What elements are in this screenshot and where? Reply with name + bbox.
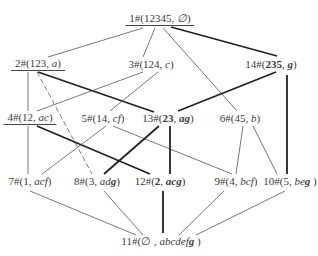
edge-n4-n12: [37, 126, 150, 174]
lattice-node-7: 7#(1, acf): [9, 175, 52, 187]
paren-close: ): [121, 112, 125, 124]
node-extent: 235: [266, 58, 283, 70]
lattice-node-5: 5#(14, cf): [82, 112, 125, 124]
paren-close: ): [190, 112, 194, 124]
node-intent: cf: [113, 112, 121, 124]
node-extent: ∅: [141, 235, 151, 247]
edge-n7-n11: [30, 191, 136, 235]
node-intent-bold: acg: [166, 175, 182, 187]
paren-close: ): [254, 175, 258, 187]
edge-n1-n14: [171, 27, 277, 56]
edge-n5-n7: [42, 126, 106, 174]
node-id: 6#: [220, 112, 231, 124]
node-extent: 12345: [144, 12, 172, 24]
node-id: 7#: [9, 175, 20, 187]
node-id: 14#: [245, 58, 262, 70]
lattice-edges: [0, 0, 318, 256]
edge-n1-n6: [163, 28, 237, 111]
node-id: 13#: [142, 112, 159, 124]
paren-close: ): [116, 175, 120, 187]
paren-close: ): [182, 175, 186, 187]
lattice-node-13: 13#(23, ag): [142, 112, 193, 124]
paren-close: ): [49, 111, 53, 123]
node-extent: 23: [163, 112, 174, 124]
node-id: 4#: [7, 111, 18, 123]
lattice-node-11: 11#(∅ , abcdefg ): [121, 235, 200, 247]
node-intent: ad: [100, 175, 111, 187]
node-intent: abcdef: [159, 235, 188, 247]
node-id: 5#: [82, 112, 93, 124]
node-extent: 12: [22, 111, 33, 123]
lattice-node-6: 6#(45, b): [220, 112, 260, 124]
node-intent-bold: ag: [179, 112, 190, 124]
paren-close: ): [48, 175, 52, 187]
lattice-node-1: 1#(12345, ∅): [125, 12, 194, 26]
node-intent: be: [294, 175, 304, 187]
node-intent: ac: [39, 111, 49, 123]
node-extent: 123: [30, 57, 47, 69]
edge-n10-n11: [196, 191, 285, 235]
node-id: 3#: [128, 58, 139, 70]
node-id: 1#: [129, 12, 140, 24]
lattice-node-2: 2#(123, a): [11, 57, 65, 71]
node-extent: 14: [96, 112, 107, 124]
paren-close: ): [170, 58, 174, 70]
node-extent: 124: [143, 58, 160, 70]
lattice-node-8: 8#(3, adg): [74, 175, 120, 187]
node-id: 9#: [215, 175, 226, 187]
lattice-node-4: 4#(12, ac): [3, 111, 56, 125]
node-id: 12#: [135, 175, 152, 187]
node-id: 8#: [74, 175, 85, 187]
node-intent: acf: [34, 175, 47, 187]
edge-n6-n9: [236, 126, 243, 174]
edge-n14-n13: [178, 72, 276, 111]
paren-close: ): [194, 235, 200, 247]
lattice-node-14: 14#(235, g): [245, 58, 296, 70]
node-id: 2#: [15, 57, 26, 69]
edge-n9-n11: [179, 191, 224, 235]
node-extent: 45: [235, 112, 246, 124]
paren-close: ): [187, 12, 191, 24]
node-id: 10#: [263, 175, 280, 187]
paren-close: ): [257, 112, 261, 124]
edge-n1-n2: [48, 28, 143, 57]
paren-close: ): [310, 175, 316, 187]
lattice-node-12: 12#(2, acg): [135, 175, 186, 187]
lattice-node-10: 10#(5, beg ): [263, 175, 316, 187]
node-id: 11#: [121, 235, 137, 247]
node-intent: ∅: [177, 12, 187, 24]
lattice-node-3: 3#(124, c): [128, 58, 173, 70]
edge-n6-n10: [253, 126, 277, 174]
paren-close: ): [57, 57, 61, 69]
node-intent: bcf: [240, 175, 253, 187]
lattice-node-9: 9#(4, bcf): [215, 175, 258, 187]
edge-n1-n3: [143, 28, 155, 57]
paren-close: ): [293, 58, 297, 70]
node-separator: ,: [151, 235, 159, 247]
edge-n8-n11: [104, 191, 143, 235]
edge-n2-n13: [38, 72, 154, 112]
